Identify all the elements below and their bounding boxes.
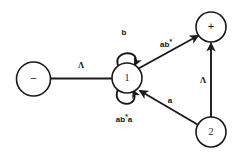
edge-state2-to-state1: a	[140, 91, 198, 125]
edge-state2-to-accept: Λ	[200, 43, 211, 117]
node-state-2[interactable]: 2	[196, 117, 226, 147]
edge-accept-label-star: *	[169, 38, 172, 45]
node-state-1-label: 1	[125, 72, 130, 83]
automaton-diagram: Λ ab* Λ a b ab*a	[0, 0, 246, 154]
node-start-label: −	[30, 72, 36, 84]
node-start[interactable]: −	[17, 62, 51, 96]
self-loop-bottom-label: ab*a	[116, 113, 133, 124]
self-loop-bottom-tail: a	[128, 115, 133, 124]
self-loop-top-label: b	[122, 28, 127, 37]
self-loop-bottom-base: ab	[116, 115, 125, 124]
automaton-canvas: Λ ab* Λ a b ab*a	[0, 0, 246, 154]
edge-state1-to-accept-label: ab*	[160, 38, 172, 49]
node-accept[interactable]: +	[196, 12, 226, 42]
edge-state2-to-state1-label: a	[168, 96, 173, 105]
edge-start-to-state1-label: Λ	[78, 60, 85, 70]
self-loop-bottom-state1: ab*a	[116, 90, 135, 125]
node-state-1[interactable]: 1	[112, 63, 142, 93]
edge-start-to-state1: Λ	[51, 60, 113, 79]
edge-accept-label-base: ab	[160, 40, 169, 49]
self-loop-top-state1: b	[117, 28, 136, 66]
node-state-2-label: 2	[209, 126, 214, 137]
node-accept-label: +	[208, 20, 214, 32]
edge-state2-to-accept-label: Λ	[200, 75, 207, 85]
edge-state1-to-accept: ab*	[139, 36, 199, 69]
